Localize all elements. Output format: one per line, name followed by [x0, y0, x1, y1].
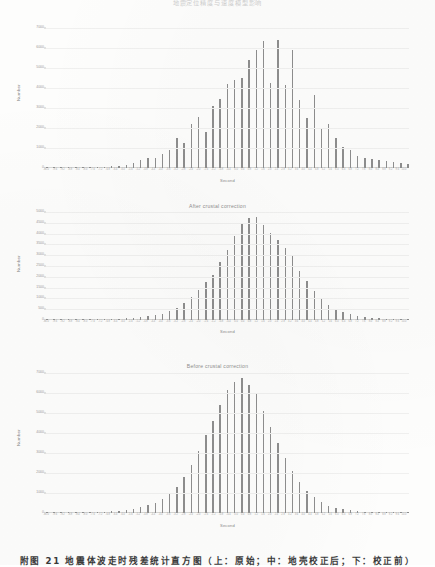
x-tick-label: -5.6 — [128, 513, 132, 521]
x-tick-label: -2.0 — [196, 320, 200, 328]
bar — [314, 291, 315, 320]
y-tick-label: 3000 — [36, 253, 44, 257]
x-tick-label: -3.6 — [166, 513, 170, 521]
x-tick-label: -4.8 — [143, 513, 147, 521]
x-tick-label: -8.4 — [75, 513, 79, 521]
bar — [299, 100, 300, 168]
bar — [306, 491, 308, 513]
y-tick-mark — [44, 493, 46, 494]
x-tick-label: -2.4 — [189, 513, 193, 521]
x-tick-label: 0.0 — [234, 168, 237, 176]
bar — [292, 471, 294, 513]
x-tick-label: 2.0 — [268, 513, 271, 521]
x-tick-label: -1.6 — [204, 513, 208, 521]
x-tick-label: -1.6 — [204, 168, 208, 176]
x-tick-label: 2.8 — [281, 168, 284, 176]
gridline — [46, 277, 409, 278]
document-header-title: 地震定位精度与速度模型影响 — [0, 0, 435, 7]
y-tick-label: 7000 — [36, 26, 44, 30]
y-tick-label: 5000 — [36, 210, 44, 214]
x-tick-label: 8.0 — [369, 320, 372, 328]
x-tick-label: 0.8 — [248, 513, 251, 521]
x-tick-label: -5.2 — [136, 320, 140, 328]
x-tick-label: -6.4 — [113, 320, 117, 328]
gridline — [46, 493, 409, 494]
y-tick-label: 1000 — [36, 491, 44, 495]
bar — [155, 503, 156, 513]
x-tick-label: -0.4 — [226, 513, 230, 521]
chart-panel-1: Number -10.0-9.6-9.2-8.8-8.4-8.0-7.6-7.2… — [0, 18, 435, 193]
bar — [299, 271, 300, 320]
x-tick-label: 6.0 — [335, 513, 338, 521]
x-tick-label: 0.4 — [241, 320, 244, 328]
x-tick-label: 0.4 — [241, 168, 244, 176]
gridline — [46, 223, 409, 224]
x-tick-label: 8.8 — [382, 513, 385, 521]
y-tick-mark — [44, 212, 46, 213]
x-tick-label: -8.0 — [83, 168, 87, 176]
y-tick-mark — [44, 128, 46, 129]
gridline — [46, 393, 409, 394]
x-tick-label: 1.2 — [254, 168, 257, 176]
x-tick-label: 1.6 — [261, 513, 264, 521]
y-tick-mark — [44, 266, 46, 267]
bar — [241, 224, 242, 320]
bar — [306, 118, 308, 168]
y-tick-mark — [44, 473, 46, 474]
y-tick-label: 3000 — [36, 451, 44, 455]
x-tick-label: 1.6 — [261, 320, 264, 328]
bar — [248, 60, 250, 168]
x-tick-label: 0.4 — [241, 513, 244, 521]
y-tick-mark — [44, 168, 46, 169]
x-tick-label: 5.2 — [322, 513, 325, 521]
y-tick-mark — [44, 88, 46, 89]
x-tick-label: -3.6 — [166, 320, 170, 328]
x-tick-label: -8.8 — [68, 513, 72, 521]
bar — [342, 147, 343, 168]
plot-area-1: -10.0-9.6-9.2-8.8-8.4-8.0-7.6-7.2-6.8-6.… — [46, 28, 409, 168]
x-tick-label: 2.4 — [275, 320, 278, 328]
x-tick-label: 7.2 — [355, 320, 358, 328]
bar — [263, 225, 265, 320]
bar — [169, 494, 170, 513]
y-tick-mark — [44, 28, 46, 29]
x-tick-label: -5.6 — [128, 168, 132, 176]
x-tick-label: 0.0 — [234, 513, 237, 521]
x-tick-label: -2.4 — [189, 320, 193, 328]
y-tick-label: 2500 — [36, 264, 44, 268]
y-tick-label: 500 — [38, 307, 44, 311]
y-tick-label: 5000 — [36, 66, 44, 70]
bar — [386, 161, 387, 168]
x-tick-label: 0.0 — [234, 320, 237, 328]
x-tick-label: -6.4 — [113, 168, 117, 176]
bar — [227, 84, 228, 168]
gridline — [46, 453, 409, 454]
bar — [328, 124, 329, 168]
x-tick-label: 9.6 — [396, 168, 399, 176]
y-tick-label: 6000 — [36, 391, 44, 395]
x-tick-label: -3.2 — [174, 168, 178, 176]
x-tick-labels-3: -10.0-9.6-9.2-8.8-8.4-8.0-7.6-7.2-6.8-6.… — [46, 513, 409, 520]
bar — [241, 78, 242, 168]
x-tick-label: -5.2 — [136, 168, 140, 176]
x-tick-label: 4.0 — [302, 168, 305, 176]
x-tick-label: 1.2 — [254, 513, 257, 521]
y-tick-label: 7000 — [36, 371, 44, 375]
x-tick-label: 10.0 — [402, 513, 407, 521]
x-tick-label: 5.2 — [322, 320, 325, 328]
x-tick-label: -7.6 — [91, 320, 95, 328]
x-tick-label: -6.8 — [106, 513, 110, 521]
x-tick-label: 5.6 — [328, 168, 331, 176]
bar — [234, 236, 236, 320]
y-tick-label: 1500 — [36, 286, 44, 290]
x-tick-label: 6.4 — [342, 320, 345, 328]
y-tick-label: 2000 — [36, 275, 44, 279]
bar — [198, 290, 199, 320]
gridline — [46, 309, 409, 310]
x-tick-label: -6.0 — [121, 320, 125, 328]
x-tick-label: 9.2 — [389, 168, 392, 176]
x-tick-label: -0.8 — [219, 513, 223, 521]
plot-area-3: -10.0-9.6-9.2-8.8-8.4-8.0-7.6-7.2-6.8-6.… — [46, 373, 409, 513]
y-tick-label: 4000 — [36, 431, 44, 435]
x-tick-label: 2.8 — [281, 320, 284, 328]
